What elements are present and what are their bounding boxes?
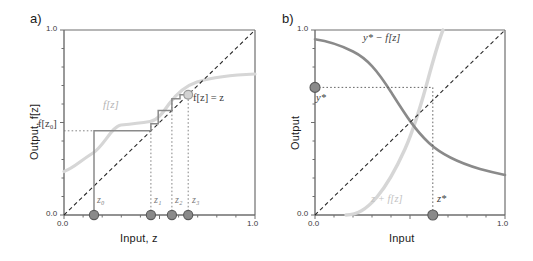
panel-a-xtick-max: 1.0 bbox=[247, 219, 258, 228]
panel-b-xtick-min: 0.0 bbox=[308, 219, 319, 228]
figure-container: a) bbox=[0, 0, 533, 261]
panel-a-ytick-min: 0.0 bbox=[46, 209, 57, 218]
panel-b-x-axis-label: Input bbox=[389, 232, 414, 244]
fixed-point-marker bbox=[184, 90, 193, 99]
label-fixed-point: f[z] = z bbox=[193, 92, 224, 103]
curve-z-plus-fz bbox=[346, 30, 443, 215]
label-y-star: y* bbox=[316, 92, 326, 103]
panel-b: b) bbox=[267, 0, 533, 261]
panel-b-ytick-min: 0.0 bbox=[297, 209, 308, 218]
label-f-z0: f[z₀] bbox=[38, 118, 57, 129]
label-z-star: z* bbox=[437, 193, 446, 204]
panel-a-ytick-max: 1.0 bbox=[46, 24, 57, 33]
panel-b-xtick-max: 1.0 bbox=[497, 219, 508, 228]
point-label-z1: z₁ bbox=[154, 194, 161, 205]
identity-line-a bbox=[64, 30, 255, 215]
curve-ystar-minus-fz bbox=[315, 39, 505, 175]
panel-a-xtick-min: 0.0 bbox=[57, 219, 68, 228]
point-label-z2: z₂ bbox=[175, 194, 182, 205]
panel-b-y-axis-label: Output bbox=[289, 116, 301, 150]
curve-label-fz: f[z] bbox=[103, 98, 119, 110]
panel-a: a) bbox=[0, 0, 266, 261]
curve-label-z-plus-fz: z + f[z] bbox=[371, 193, 403, 204]
panel-b-ytick-max: 1.0 bbox=[297, 24, 308, 33]
curve-fz bbox=[64, 74, 255, 172]
point-label-z3: z₃ bbox=[192, 194, 199, 205]
curve-label-ystar-minus-fz: y* − f[z] bbox=[363, 32, 400, 43]
point-label-z0: z₀ bbox=[97, 194, 104, 205]
panel-a-x-axis-label: Input, z bbox=[120, 232, 158, 244]
panel-a-y-axis-label: Output, f[z] bbox=[28, 104, 40, 160]
